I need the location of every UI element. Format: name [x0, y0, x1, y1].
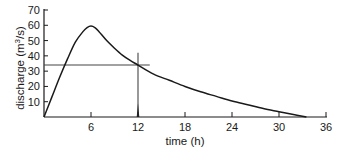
y-tick-label: 60 [28, 19, 40, 31]
x-tick-label: 24 [226, 121, 238, 133]
y-tick-label: 50 [28, 35, 40, 47]
y-tick-label: 10 [28, 96, 40, 108]
hydrograph-chart: 10203040506070 61218243036 time (h) disc… [0, 0, 339, 153]
y-tick-label: 40 [28, 50, 40, 62]
y-tick-label: 20 [28, 80, 40, 92]
y-tick-label: 70 [28, 4, 40, 16]
x-tick-label: 18 [179, 121, 191, 133]
x-tick-label: 12 [132, 121, 144, 133]
y-axis-ticks: 10203040506070 [28, 4, 48, 108]
x-axis-title: time (h) [166, 135, 205, 147]
x-tick-label: 6 [88, 121, 94, 133]
vline-spike [137, 103, 140, 117]
x-tick-label: 36 [320, 121, 332, 133]
y-axis-title: discharge (m3/s) [13, 26, 26, 110]
hydrograph-curve [44, 26, 306, 117]
y-tick-label: 30 [28, 65, 40, 77]
x-tick-label: 30 [273, 121, 285, 133]
